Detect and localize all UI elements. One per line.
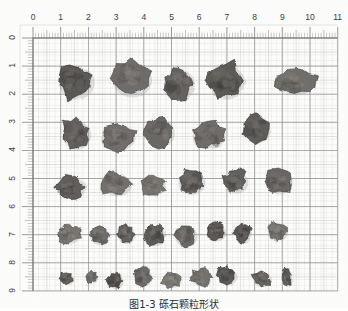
x-axis-tick-label: 2 <box>79 13 97 22</box>
x-axis-tick-label: 1 <box>52 13 70 22</box>
x-axis-tick-label: 10 <box>301 13 319 22</box>
x-axis-tick-label: 11 <box>329 13 347 22</box>
x-axis-tick-label: 6 <box>190 13 208 22</box>
x-axis-tick-label: 9 <box>273 13 291 22</box>
y-axis-tick-label: 6 <box>8 197 17 215</box>
y-axis-tick-label: 3 <box>8 113 17 131</box>
y-axis-tick-label: 2 <box>8 84 17 102</box>
x-axis-tick-label: 0 <box>24 13 42 22</box>
x-axis-tick-label: 8 <box>246 13 264 22</box>
x-axis-tick-label: 4 <box>135 13 153 22</box>
x-axis-tick-label: 5 <box>163 13 181 22</box>
y-axis-tick-label: 0 <box>8 28 17 46</box>
y-axis-tick-label: 7 <box>8 225 17 243</box>
y-axis-tick-label: 1 <box>8 56 17 74</box>
x-axis-tick-label: 3 <box>107 13 125 22</box>
y-axis-tick-label: 4 <box>8 141 17 159</box>
y-axis-tick-label: 5 <box>8 169 17 187</box>
figure-caption: 图1-3 砾石颗粒形状 <box>0 296 348 311</box>
x-axis-tick-label: 7 <box>218 13 236 22</box>
y-axis-tick-label: 8 <box>8 253 17 271</box>
